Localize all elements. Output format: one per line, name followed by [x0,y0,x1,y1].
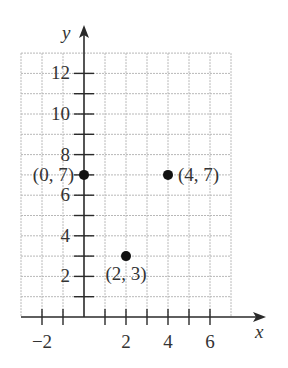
coordinate-plane: −224624681012 x y (0, 7)(4, 7)(2, 3) [0,0,288,368]
x-tick-label: 6 [205,331,215,352]
y-tick-label: 4 [61,225,71,246]
point-label: (2, 3) [105,263,146,285]
x-tick-label: 2 [121,331,131,352]
data-point [79,170,89,180]
point-label: (4, 7) [178,164,219,186]
x-tick-label: −2 [32,331,52,352]
x-tick-label: 4 [163,331,173,352]
y-axis-label: y [60,22,71,43]
data-point [121,251,131,261]
y-tick-label: 8 [61,144,71,165]
x-axis-label: x [254,321,264,342]
y-tick-label: 10 [51,103,70,124]
tick-labels: −224624681012 [32,62,215,352]
data-point [163,170,173,180]
point-label: (0, 7) [33,164,74,186]
y-tick-label: 2 [61,265,71,286]
y-tick-label: 12 [51,62,70,83]
y-tick-label: 6 [61,184,71,205]
